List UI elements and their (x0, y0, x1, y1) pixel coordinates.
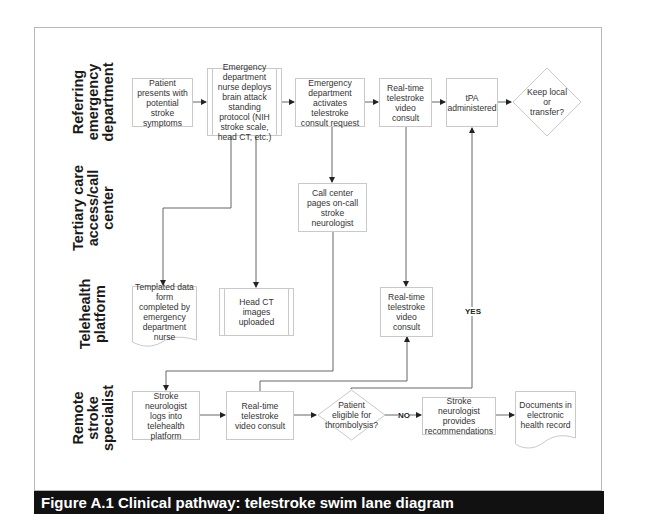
node-neurologist-recommendations: Stroke neurologist provides recommendati… (422, 397, 496, 435)
node-ed-nurse-protocol: Emergency department nurse deploys brain… (207, 68, 282, 136)
document-templated-form-label: Templated data form completed by emergen… (132, 289, 197, 335)
node-neurologist-logs-in: Stroke neurologist logs into telehealth … (132, 391, 200, 440)
document-templated-form: Templated data form completed by emergen… (132, 286, 197, 348)
decision-eligible-thrombolysis: Patient eligible for thrombolysis? (317, 389, 386, 441)
node-ed-activates-consult: Emergency department activates telestrok… (295, 78, 365, 127)
document-ehr-label: Documents in electronic health record (515, 394, 576, 436)
node-head-ct-uploaded: Head CT images uploaded (219, 288, 294, 336)
figure-caption: Figure A.1 Clinical pathway: telestroke … (34, 491, 604, 514)
node-tpa-administered: tPA administered (446, 78, 498, 127)
edge-label-yes: YES (465, 307, 481, 316)
decision-keep-local-or-transfer: Keep local or transfer? (512, 67, 582, 137)
node-patient-presents: Patient presents with potential stroke s… (132, 78, 193, 127)
decision-eligible-label: Patient eligible for thrombolysis? (317, 389, 386, 441)
document-ehr: Documents in electronic health record (515, 391, 576, 451)
node-rt-consult-platform: Real-time telestroke video consult (380, 287, 433, 337)
node-call-center-pages: Call center pages on-call stroke neurolo… (298, 183, 367, 232)
decision-keep-local-label: Keep local or transfer? (512, 67, 582, 137)
edge-label-no: NO (398, 411, 410, 420)
node-rt-consult-referring: Real-time telestroke video consult (379, 78, 432, 127)
node-rt-consult-specialist: Real-time telestroke video consult (226, 391, 294, 440)
